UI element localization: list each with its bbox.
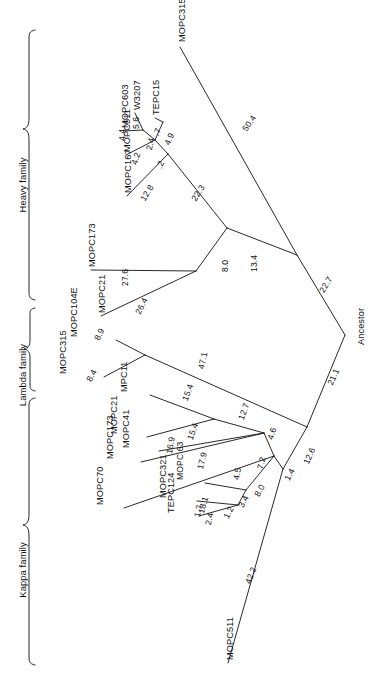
taxon-label-mopc315-heavy[interactable]: MOPC315 [178,0,187,42]
family-label-kappa: Kappa family [18,542,27,597]
branch-length-4-5: 4.5 [232,467,243,481]
edge-ancestor-heavy [297,255,345,335]
figure-canvas: Heavy family Lambda family Kappa family … [0,0,380,694]
edge-kappa-mopc21 [147,419,214,437]
taxon-label-tepc15[interactable]: TEPC15 [152,80,161,115]
taxon-label-mopc173-heavy[interactable]: MOPC173 [88,223,97,267]
edge-heavy-tepc15 [155,118,163,122]
branch-length-8-0-heavy: 8.0 [221,260,230,272]
taxon-label-mopc315-lambda[interactable]: MOPC315 [59,330,68,374]
taxon-label-mopc173-kappa[interactable]: MOPC173 [106,415,115,459]
edge-kappa-lambda-471 [145,355,307,427]
edge-heavy-mopc173 [91,270,196,271]
tree-graphic [0,0,380,694]
taxon-label-mopc104e[interactable]: MOPC104E [70,287,79,337]
edge-kappa-mopc511 [228,469,283,663]
taxon-label-mopc63[interactable]: MOPC 63 [176,442,185,480]
edge-heavy-internal-134 [227,228,297,255]
node-label-ancestor: Ancestor [357,308,366,345]
taxon-label-mopc70[interactable]: MOPC70 [96,467,105,505]
taxon-label-mopc511-kappa[interactable]: MOPC511 [226,617,235,660]
edge-lambda-mopc104e [116,340,145,355]
bracket-kappa-family [23,398,35,665]
branch-length-13-4: 13.4 [250,255,259,272]
family-label-lambda: Lambda family [18,344,27,406]
branch-length-5-6: 5.6 [132,117,141,129]
edge-heavy-mopc21 [101,271,196,316]
edge-heavy-mopc315 [180,47,297,255]
edge-kappa-14 [274,456,283,469]
taxon-label-tepc124[interactable]: TEPC124 [167,472,176,513]
taxon-label-mpc11[interactable]: MPC11 [120,362,129,392]
edge-kappa-127 [214,419,264,433]
taxon-label-mopc21-heavy[interactable]: MOPC21 [98,275,107,313]
taxon-label-mopc41[interactable]: MOPC41 [122,410,131,448]
edge-kappa-mopc63 [205,483,246,490]
taxon-label-w3207[interactable]: W3207 [133,80,142,110]
family-label-heavy: Heavy family [18,158,27,213]
branch-length-4-4: 4.4 [118,129,127,141]
branch-length-27-6: 27.6 [121,269,130,286]
